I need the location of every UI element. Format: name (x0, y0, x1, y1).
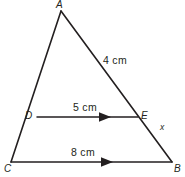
geometry-figure: A B C D E 4 cm 5 cm 8 cm x (0, 0, 185, 177)
parallel-arrow-marker-de (99, 112, 111, 122)
vertex-label-c: C (4, 164, 11, 174)
measure-label-side-ab: 4 cm (103, 55, 127, 66)
measure-label-segment-eb-unknown: x (160, 123, 165, 132)
parallel-arrow-marker-cb (101, 157, 113, 167)
measure-label-segment-de: 5 cm (73, 102, 97, 113)
vertex-label-b: B (174, 164, 181, 174)
measure-label-segment-cb: 8 cm (71, 147, 95, 158)
vertex-label-e: E (141, 111, 148, 121)
segment-ab (61, 11, 172, 162)
segment-ac (11, 11, 61, 162)
vertex-label-a: A (56, 0, 63, 10)
vertex-label-d: D (25, 111, 32, 121)
